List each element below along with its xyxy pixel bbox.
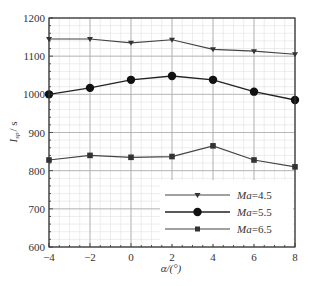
y-axis-label: Isp/ s bbox=[7, 122, 21, 144]
data-point-square bbox=[169, 154, 175, 160]
data-point-square bbox=[87, 153, 93, 159]
data-point-square bbox=[210, 143, 216, 149]
x-axis-label-text: α/(°) bbox=[161, 262, 182, 275]
y-axis-tick-labels: 600700800900100011001200 bbox=[23, 12, 46, 253]
data-point-circle bbox=[168, 72, 176, 80]
y-axis-label-sub: sp bbox=[13, 132, 21, 139]
data-point-square bbox=[128, 155, 134, 161]
legend: Ma=4.5 Ma=5.5 Ma=6.5 bbox=[160, 180, 293, 244]
data-point-triangle bbox=[128, 41, 134, 46]
y-tick-label: 1200 bbox=[23, 12, 46, 24]
x-tick-label: 8 bbox=[292, 251, 298, 263]
circle-marker-icon bbox=[193, 208, 201, 216]
svg-text:Ma=5.5: Ma=5.5 bbox=[236, 206, 272, 218]
x-tick-label: 6 bbox=[251, 251, 257, 263]
y-tick-label: 1100 bbox=[23, 50, 45, 62]
data-point-circle bbox=[127, 76, 135, 84]
data-point-circle bbox=[209, 76, 217, 84]
svg-text:Ma=6.5: Ma=6.5 bbox=[236, 223, 272, 235]
x-axis-label: α/(°) bbox=[161, 262, 182, 275]
y-tick-label: 800 bbox=[29, 165, 46, 177]
y-tick-label: 1000 bbox=[23, 88, 46, 100]
data-point-square bbox=[251, 157, 257, 163]
line-chart: 600700800900100011001200 −4−202468 α/(°)… bbox=[0, 0, 311, 286]
data-point-circle bbox=[250, 87, 258, 95]
data-point-circle bbox=[86, 84, 94, 92]
y-tick-label: 900 bbox=[29, 127, 46, 139]
y-axis-label-unit: / s bbox=[7, 122, 19, 132]
x-tick-label: 0 bbox=[128, 251, 134, 263]
x-tick-label: −4 bbox=[43, 251, 55, 263]
x-tick-label: 4 bbox=[210, 251, 216, 263]
square-marker-icon bbox=[195, 227, 200, 232]
x-tick-label: −2 bbox=[84, 251, 96, 263]
y-tick-label: 700 bbox=[29, 203, 46, 215]
svg-text:Isp/ s: Isp/ s bbox=[7, 122, 21, 144]
svg-text:Ma=4.5: Ma=4.5 bbox=[236, 189, 272, 201]
